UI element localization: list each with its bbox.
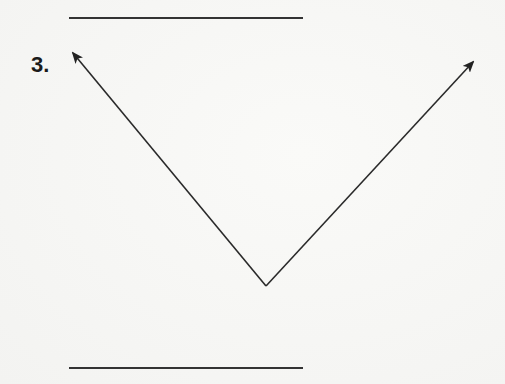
worksheet-page: 3. <box>0 0 505 384</box>
right-ray-arrow <box>266 62 473 286</box>
left-ray-arrow <box>73 53 266 286</box>
angle-figure <box>0 0 505 384</box>
